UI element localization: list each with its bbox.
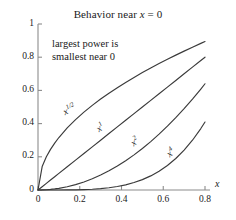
plot-canvas [0, 0, 236, 220]
x-axis-tick-label: 0.2 [65, 194, 95, 204]
x-axis-tick-label: 0.8 [190, 194, 220, 204]
x-axis-tick-label: 0 [23, 194, 53, 204]
y-axis-tick-label: 0.6 [22, 84, 34, 94]
curves-group [38, 42, 205, 190]
figure-container: Behavior near x = 0 largest power is sma… [0, 0, 236, 220]
largest-power-note: largest power is smallest near 0 [52, 37, 118, 63]
y-axis-tick-label: 0.2 [22, 150, 34, 160]
x-axis-tick-label: 0.6 [148, 194, 178, 204]
chart-title-suffix: = 0 [145, 8, 163, 20]
x-axis-label: x [215, 178, 219, 189]
largest-power-note-line1: largest power is [52, 37, 118, 50]
curve-2 [38, 57, 205, 190]
y-axis-tick-label: 0 [29, 184, 34, 194]
chart-title-prefix: Behavior near [74, 8, 140, 20]
y-axis-tick-label: 0.8 [22, 51, 34, 61]
curve-3 [38, 84, 205, 190]
largest-power-note-line2: smallest near 0 [52, 50, 118, 63]
y-axis-tick-label: 1 [29, 18, 34, 28]
y-axis-ticks [38, 24, 42, 190]
chart-title: Behavior near x = 0 [0, 8, 236, 20]
curve-1 [38, 42, 205, 190]
y-axis-tick-label: 0.4 [22, 117, 34, 127]
x-axis-tick-label: 0.4 [107, 194, 137, 204]
